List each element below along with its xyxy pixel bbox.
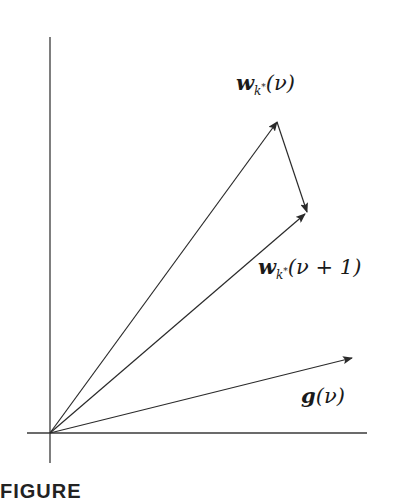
figure-caption: FIGURE — [0, 480, 82, 502]
vector-w-k-star-nu-plus-1 — [50, 214, 305, 433]
update-vector — [277, 122, 307, 212]
label-subscript: k* — [254, 84, 266, 98]
label-w-k-star-nu: wk*(ν) — [236, 72, 295, 97]
label-g-nu: g(ν) — [301, 385, 345, 407]
label-base: w — [236, 70, 254, 95]
vector-w-k-star-nu — [50, 122, 277, 433]
label-base: g — [301, 383, 316, 408]
label-subscript: k* — [276, 268, 288, 282]
label-base: w — [258, 254, 276, 279]
label-argument: (ν) — [316, 384, 345, 408]
label-argument: (ν) — [266, 71, 295, 95]
label-argument: (ν + 1) — [288, 255, 361, 279]
label-w-k-star-nu-plus-1: wk*(ν + 1) — [258, 256, 361, 281]
